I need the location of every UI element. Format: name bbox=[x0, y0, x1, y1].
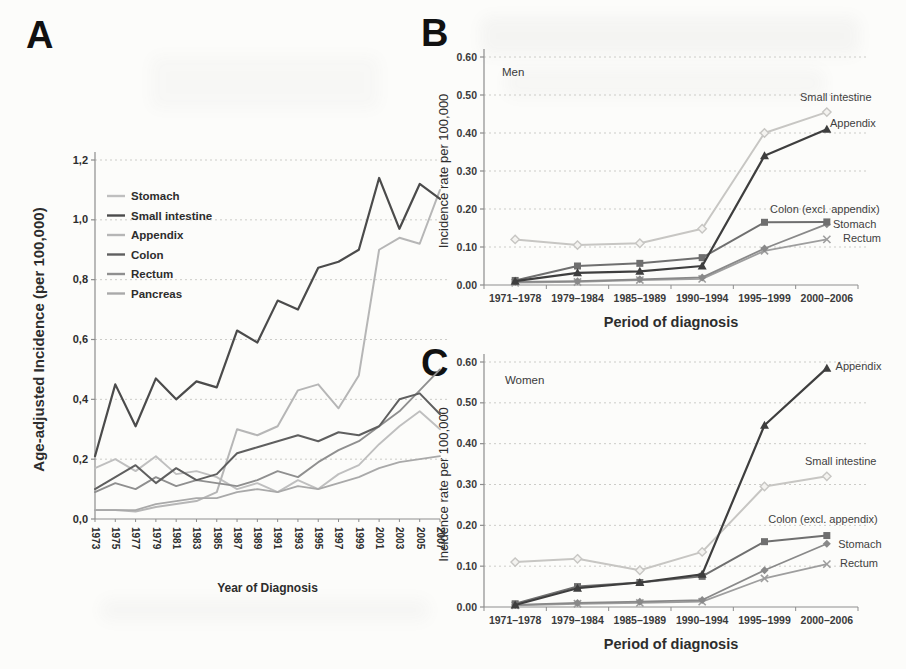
y-tick-label: 0.60 bbox=[457, 356, 478, 368]
x-axis-title: Period of diagnosis bbox=[604, 314, 739, 330]
series-label: Colon (excl. appendix) bbox=[770, 203, 879, 215]
x-axis-ticks: 1973197519771979198119831985198719891991… bbox=[90, 519, 446, 550]
x-axis-title: Period of diagnosis bbox=[604, 636, 739, 652]
series-label: Appendix bbox=[830, 117, 876, 129]
x-tick-label: 2005 bbox=[415, 527, 426, 550]
y-tick-label: 0.10 bbox=[457, 241, 478, 253]
series-colon-excl-appendix- bbox=[512, 218, 831, 284]
y-tick-label: 0.40 bbox=[457, 127, 478, 139]
x-tick-label: 1990–1994 bbox=[676, 292, 729, 304]
series-small-intestine bbox=[511, 108, 831, 249]
x-tick-label: 1985–1989 bbox=[614, 614, 667, 626]
x-axis-ticks: 1971–19781979–19841985–19891990–19941995… bbox=[484, 285, 858, 304]
x-tick-label: 1989 bbox=[252, 527, 263, 550]
y-tick-label: 1,0 bbox=[73, 213, 88, 225]
y-tick-label: 0,0 bbox=[73, 513, 88, 525]
series-label: Stomach bbox=[838, 538, 881, 550]
legend: StomachSmall intestineAppendixColonRectu… bbox=[107, 190, 212, 300]
panel-a-age-adjusted-incidence-chart: 0,00,20,40,60,81,01,21973197519771979198… bbox=[20, 140, 460, 655]
panel-c-women-incidence-chart: 0.000.100.200.300.400.500.601971–1978197… bbox=[435, 335, 906, 669]
y-tick-label: 0.50 bbox=[457, 89, 478, 101]
series-label: Small intestine bbox=[800, 91, 872, 103]
y-axis-ticks: 0.000.100.200.300.400.500.60 bbox=[457, 51, 484, 291]
x-tick-label: 2001 bbox=[374, 527, 385, 550]
x-tick-label: 2000–2006 bbox=[801, 614, 854, 626]
y-tick-label: 0.20 bbox=[457, 203, 478, 215]
x-tick-label: 1985 bbox=[212, 527, 223, 550]
x-tick-label: 1990–1994 bbox=[676, 614, 729, 626]
x-tick-label: 1993 bbox=[293, 527, 304, 550]
y-tick-label: 0.20 bbox=[457, 519, 478, 531]
y-axis-ticks: 0,00,20,40,60,81,01,2 bbox=[73, 154, 95, 525]
series-label: Rectum bbox=[840, 557, 878, 569]
series-label: Colon (excl. appendix) bbox=[768, 513, 877, 525]
y-tick-label: 0.30 bbox=[457, 478, 478, 490]
gridlines bbox=[484, 57, 866, 247]
legend-label: Appendix bbox=[131, 229, 184, 241]
x-tick-label: 1995–1999 bbox=[738, 614, 791, 626]
panel-inner-label: Men bbox=[502, 66, 524, 78]
legend-label: Colon bbox=[131, 249, 164, 261]
x-tick-label: 1995–1999 bbox=[738, 292, 791, 304]
y-axis-ticks: 0.000.100.200.300.400.500.60 bbox=[457, 356, 484, 613]
x-axis-title: Year of Diagnosis bbox=[217, 581, 318, 595]
series-label: Stomach bbox=[833, 218, 876, 230]
x-tick-label: 1971–1978 bbox=[489, 614, 542, 626]
y-tick-label: 0.60 bbox=[457, 51, 478, 63]
series-appendix bbox=[511, 364, 832, 609]
y-tick-label: 0,4 bbox=[73, 393, 89, 405]
x-tick-label: 1983 bbox=[191, 527, 202, 550]
x-tick-label: 1979 bbox=[151, 527, 162, 550]
legend-label: Small intestine bbox=[131, 210, 212, 222]
y-tick-label: 0,8 bbox=[73, 273, 88, 285]
x-tick-label: 1979–1984 bbox=[551, 614, 604, 626]
y-axis-title: Incidence rate per 100,000 bbox=[436, 407, 451, 562]
y-tick-label: 0.30 bbox=[457, 165, 478, 177]
series-colon-excl-appendix- bbox=[512, 532, 831, 607]
x-tick-label: 1981 bbox=[171, 527, 182, 550]
x-tick-label: 1987 bbox=[232, 527, 243, 550]
y-tick-label: 0.00 bbox=[457, 601, 478, 613]
series-stomach bbox=[95, 411, 440, 492]
x-tick-label: 1985–1989 bbox=[614, 292, 667, 304]
x-tick-label: 1975 bbox=[110, 527, 121, 550]
series-label: Small intestine bbox=[805, 455, 877, 467]
x-tick-label: 1977 bbox=[130, 527, 141, 550]
x-tick-label: 1995 bbox=[313, 527, 324, 550]
x-tick-label: 1979–1984 bbox=[551, 292, 604, 304]
x-tick-label: 1973 bbox=[90, 527, 101, 550]
panel-a-letter: A bbox=[26, 16, 53, 54]
x-axis-ticks: 1971–19781979–19841985–19891990–19941995… bbox=[484, 607, 858, 626]
y-tick-label: 0.00 bbox=[457, 279, 478, 291]
x-tick-label: 1991 bbox=[272, 527, 283, 550]
x-tick-label: 1997 bbox=[333, 527, 344, 550]
x-tick-label: 2003 bbox=[394, 527, 405, 550]
legend-label: Rectum bbox=[131, 268, 173, 280]
panel-inner-label: Women bbox=[505, 374, 544, 386]
y-tick-label: 0,6 bbox=[73, 333, 88, 345]
x-tick-label: 2000–2006 bbox=[801, 292, 854, 304]
y-tick-label: 1,2 bbox=[73, 154, 88, 166]
y-axis-title: Age-adjusted Incidence (per 100,000) bbox=[30, 207, 47, 471]
y-tick-label: 0.10 bbox=[457, 560, 478, 572]
x-tick-label: 1971–1978 bbox=[489, 292, 542, 304]
figure-canvas: A B C 0,00,20,40,60,81,01,21973197519771… bbox=[0, 0, 906, 669]
series-label: Rectum bbox=[843, 232, 881, 244]
bleedthrough-smudge bbox=[150, 55, 380, 110]
x-tick-label: 1999 bbox=[354, 527, 365, 550]
axes bbox=[484, 49, 858, 285]
panel-b-men-incidence-chart: 0.000.100.200.300.400.500.601971–1978197… bbox=[435, 2, 906, 335]
series-label: Appendix bbox=[836, 360, 882, 372]
legend-label: Stomach bbox=[131, 190, 180, 202]
y-axis-title: Incidence rate per 100,000 bbox=[436, 94, 451, 249]
y-tick-label: 0.40 bbox=[457, 437, 478, 449]
y-tick-label: 0.50 bbox=[457, 396, 478, 408]
y-tick-label: 0,2 bbox=[73, 453, 88, 465]
legend-label: Pancreas bbox=[131, 288, 182, 300]
